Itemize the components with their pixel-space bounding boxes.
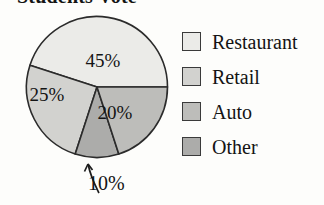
pie-slice-label-retail: 25% [30, 84, 65, 105]
legend-item-other[interactable]: Other [182, 129, 322, 164]
callout-label: 10% [88, 172, 125, 195]
pie-slice-label-restaurant: 45% [86, 50, 121, 71]
legend-item-label: Restaurant [212, 32, 298, 52]
pie-slice-label-auto: 20% [98, 102, 133, 123]
legend-item-restaurant[interactable]: Restaurant [182, 24, 322, 59]
legend-swatch-icon [182, 67, 201, 86]
legend-swatch-icon [182, 102, 201, 121]
legend-swatch-icon [182, 32, 201, 51]
page-title: Students Vote [17, 0, 137, 8]
legend-item-label: Other [212, 137, 258, 157]
legend-item-auto[interactable]: Auto [182, 94, 322, 129]
chart-page: Students Vote 45%25%20% 10% RestaurantRe… [0, 0, 324, 205]
legend: RestaurantRetailAutoOther [182, 24, 322, 164]
legend-item-label: Auto [212, 102, 252, 122]
legend-swatch-icon [182, 137, 201, 156]
legend-item-retail[interactable]: Retail [182, 59, 322, 94]
legend-item-label: Retail [212, 67, 260, 87]
